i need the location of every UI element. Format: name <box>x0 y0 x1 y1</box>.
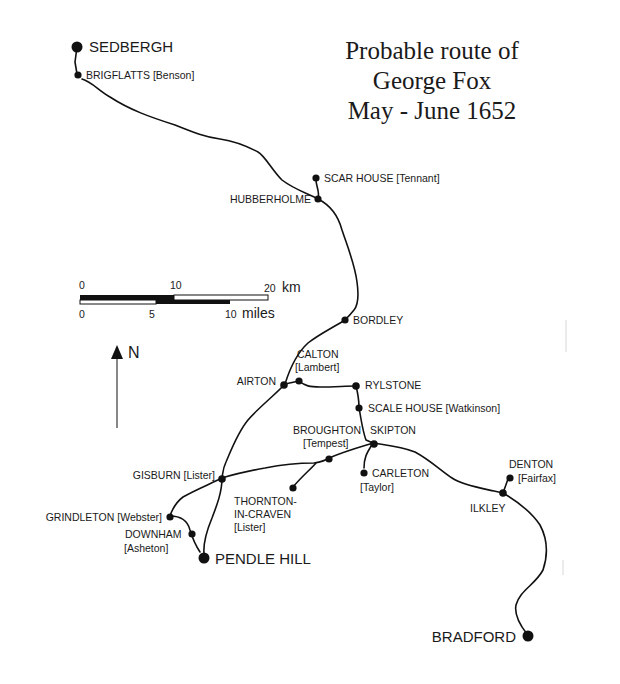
place-sedbergh[interactable]: SEDBERGH <box>72 38 174 55</box>
place-label: SCAR HOUSE [Tennant] <box>324 172 440 184</box>
place-label: SEDBERGH <box>89 38 173 55</box>
route-airton-gisburn <box>222 384 285 478</box>
place-marker-icon <box>506 474 513 481</box>
north-label: N <box>128 344 140 361</box>
place-label: ILKLEY <box>470 502 506 514</box>
place-label: GRINDLETON [Webster] <box>46 511 162 523</box>
place-marker-icon <box>218 475 226 483</box>
place-label: CALTON <box>297 348 339 360</box>
place-label: DOWNHAM <box>125 528 182 540</box>
place-marker-icon <box>312 174 319 181</box>
place-label-host: [Taylor] <box>360 481 394 493</box>
map-title: Probable route of George Fox May - June … <box>345 37 519 124</box>
place-carleton[interactable]: CARLETON [Taylor] <box>360 467 429 493</box>
scale-km-bar-black <box>80 295 174 300</box>
place-marker-icon <box>360 469 367 476</box>
place-marker-icon <box>341 316 348 323</box>
place-marker-icon <box>199 553 210 564</box>
place-broughton[interactable]: BROUGHTON [Tempest] <box>293 424 361 463</box>
place-marker-icon <box>280 381 288 389</box>
place-label-2: IN-CRAVEN <box>234 508 291 520</box>
place-marker-icon <box>295 377 302 384</box>
scale-bar: 0 10 20 km 0 5 10 miles <box>79 279 301 321</box>
place-label: BROUGHTON <box>293 424 361 436</box>
place-calton[interactable]: CALTON [Lambert] <box>295 348 339 385</box>
place-marker-icon <box>188 530 195 537</box>
place-downham[interactable]: DOWNHAM [Asheton] <box>124 528 196 554</box>
place-label: CARLETON <box>372 467 429 479</box>
title-line-2: George Fox <box>373 67 492 94</box>
places: SEDBERGH BRIGFLATTS [Benson] SCAR HOUSE … <box>46 38 556 645</box>
place-label: DENTON <box>509 458 553 470</box>
place-label-host: [Asheton] <box>124 542 168 554</box>
scale-mi-5: 5 <box>149 308 155 320</box>
title-line-1: Probable route of <box>345 37 519 64</box>
place-rylstone[interactable]: RYLSTONE <box>352 379 421 391</box>
place-grindleton[interactable]: GRINDLETON [Webster] <box>46 511 174 523</box>
place-label: THORNTON- <box>234 495 297 507</box>
scale-km-bar-white <box>174 295 268 300</box>
place-label: RYLSTONE <box>365 379 421 391</box>
route-ilkley-bradford <box>503 493 546 634</box>
place-marker-icon <box>314 195 321 202</box>
place-label: HUBBERHOLME <box>230 193 311 205</box>
place-marker-icon <box>72 42 83 53</box>
place-label-host: [Fairfax] <box>518 472 556 484</box>
place-marker-icon <box>166 513 173 520</box>
scale-mi-0: 0 <box>79 308 85 320</box>
route-hubberholme-bordley <box>318 199 358 320</box>
place-label-host: [Lister] <box>234 521 266 533</box>
north-arrow: N <box>111 344 140 428</box>
place-marker-icon <box>523 631 534 642</box>
place-bradford[interactable]: BRADFORD <box>432 628 534 645</box>
place-label: PENDLE HILL <box>215 550 311 567</box>
place-denton[interactable]: DENTON [Fairfax] <box>506 458 556 484</box>
scale-mi-bar-black <box>156 300 230 304</box>
place-marker-icon <box>370 440 378 448</box>
place-label-host: [Lambert] <box>295 361 339 373</box>
place-label: SCALE HOUSE [Watkinson] <box>368 402 500 414</box>
place-skipton[interactable]: SKIPTON <box>370 424 416 448</box>
route-gisburn-pendle <box>204 478 222 554</box>
place-label: BRADFORD <box>432 628 516 645</box>
route-skipton-gisburn <box>222 443 373 478</box>
place-marker-icon <box>325 455 332 462</box>
route-thornton-spur <box>293 463 316 487</box>
scan-artifacts <box>563 320 566 575</box>
place-marker-icon <box>355 404 362 411</box>
title-line-3: May - June 1652 <box>348 97 517 124</box>
route-map: Probable route of George Fox May - June … <box>0 0 620 684</box>
scale-km-0: 0 <box>79 279 85 291</box>
place-label: BORDLEY <box>353 314 403 326</box>
place-label: GISBURN [Lister] <box>133 469 215 481</box>
place-pendle-hill[interactable]: PENDLE HILL <box>199 550 311 567</box>
place-ilkley[interactable]: ILKLEY <box>470 489 507 514</box>
scale-mi-10: 10 <box>225 308 237 320</box>
place-scale-house[interactable]: SCALE HOUSE [Watkinson] <box>355 402 500 414</box>
north-arrow-icon <box>111 345 123 359</box>
scale-km-10: 10 <box>170 279 182 291</box>
scale-km-unit: km <box>282 279 301 295</box>
place-scar-house[interactable]: SCAR HOUSE [Tennant] <box>312 172 439 184</box>
scale-mi-unit: miles <box>242 305 275 321</box>
place-marker-icon <box>352 382 360 390</box>
route-brigflatts-hubberholme <box>82 79 318 199</box>
place-label: AIRTON <box>237 375 276 387</box>
place-thornton-in-craven[interactable]: THORNTON- IN-CRAVEN [Lister] <box>234 484 297 533</box>
place-marker-icon <box>74 71 81 78</box>
place-airton[interactable]: AIRTON <box>237 375 288 389</box>
scale-mi-bar-white <box>80 300 156 304</box>
place-label-host: [Tempest] <box>303 437 349 449</box>
route-calton-rylstone <box>299 381 356 387</box>
place-gisburn[interactable]: GISBURN [Lister] <box>133 469 226 483</box>
place-label: SKIPTON <box>370 424 416 436</box>
place-label: BRIGFLATTS [Benson] <box>86 69 194 81</box>
place-marker-icon <box>499 489 507 497</box>
place-bordley[interactable]: BORDLEY <box>341 314 403 326</box>
place-marker-icon <box>289 484 296 491</box>
place-hubberholme[interactable]: HUBBERHOLME <box>230 193 322 205</box>
route-scar-house-spur <box>316 180 319 198</box>
scale-km-20: 20 <box>264 282 276 294</box>
place-brigflatts[interactable]: BRIGFLATTS [Benson] <box>74 69 194 81</box>
